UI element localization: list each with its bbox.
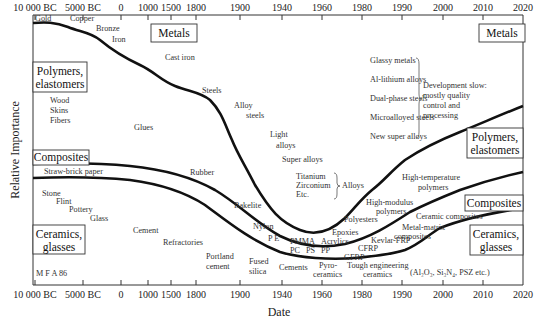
- svg-text:alloys: alloys: [276, 141, 296, 150]
- svg-text:1900: 1900: [230, 289, 250, 300]
- svg-text:Ceramics,: Ceramics,: [36, 228, 82, 241]
- svg-text:Metals: Metals: [486, 27, 518, 39]
- metals-polymers-boundary: [33, 22, 523, 232]
- svg-text:Bakelite: Bakelite: [234, 201, 262, 210]
- materials-evolution-chart: 10 000 BC 5000 BC 0 1000 1500 1800 1900 …: [0, 0, 539, 329]
- svg-text:Alloy: Alloy: [234, 101, 254, 110]
- svg-text:Glass: Glass: [90, 214, 108, 223]
- alloys-brace: [334, 173, 340, 199]
- svg-text:Titanium: Titanium: [296, 172, 326, 181]
- svg-text:1960: 1960: [312, 289, 332, 300]
- svg-text:Refractories: Refractories: [163, 238, 203, 247]
- svg-text:1990: 1990: [392, 2, 412, 13]
- svg-text:Polymers,: Polymers,: [472, 131, 518, 144]
- svg-text:10 000 BC: 10 000 BC: [13, 2, 57, 13]
- svg-text:Steels: Steels: [202, 86, 222, 95]
- svg-text:CFRP: CFRP: [358, 244, 378, 253]
- svg-text:Etc.: Etc.: [296, 190, 309, 199]
- svg-text:Composites: Composites: [467, 197, 522, 210]
- svg-text:1500: 1500: [161, 289, 181, 300]
- svg-text:Copper: Copper: [70, 14, 94, 23]
- box-composites-right: Composites: [465, 195, 523, 211]
- svg-text:mostly quality: mostly quality: [423, 91, 471, 100]
- svg-text:glasses: glasses: [43, 241, 76, 254]
- svg-text:10 000 BC: 10 000 BC: [13, 289, 57, 300]
- svg-text:5000 BC: 5000 BC: [65, 2, 101, 13]
- svg-text:PC: PC: [290, 246, 301, 255]
- svg-text:steels: steels: [246, 111, 264, 120]
- svg-text:PMMA: PMMA: [290, 237, 315, 246]
- svg-text:Fibers: Fibers: [50, 116, 70, 125]
- svg-text:Composites: Composites: [34, 151, 89, 164]
- svg-text:Polymers,: Polymers,: [37, 65, 83, 78]
- svg-text:PP: PP: [321, 246, 331, 255]
- svg-text:Gold: Gold: [35, 14, 51, 23]
- box-polymers-right: Polymers, elastomers: [467, 128, 523, 158]
- svg-text:control and: control and: [423, 101, 460, 110]
- svg-text:1960: 1960: [312, 2, 332, 13]
- svg-text:1980: 1980: [352, 2, 372, 13]
- svg-text:Fused: Fused: [249, 257, 269, 266]
- svg-text:2010: 2010: [473, 289, 493, 300]
- svg-text:1980: 1980: [352, 289, 372, 300]
- svg-text:Metal-matrix: Metal-matrix: [402, 223, 445, 232]
- svg-text:High-modulus: High-modulus: [366, 198, 413, 207]
- svg-text:Rubber: Rubber: [190, 168, 214, 177]
- svg-text:Portland: Portland: [206, 252, 234, 261]
- svg-text:Iron: Iron: [112, 35, 126, 44]
- svg-text:processing: processing: [423, 111, 458, 120]
- svg-text:1000: 1000: [138, 289, 158, 300]
- svg-text:Cement: Cement: [133, 226, 159, 235]
- top-tick-labels: 10 000 BC 5000 BC 0 1000 1500 1800 1900 …: [13, 2, 533, 13]
- svg-text:glasses: glasses: [480, 241, 513, 254]
- svg-text:Pottery: Pottery: [69, 205, 94, 214]
- bottom-tick-labels: 10 000 BC 5000 BC 0 1000 1500 1800 1900 …: [13, 289, 533, 300]
- svg-text:Tough engineering: Tough engineering: [347, 261, 409, 270]
- svg-text:Cast iron: Cast iron: [165, 53, 195, 62]
- svg-text:1900: 1900: [230, 2, 250, 13]
- svg-text:Nylon: Nylon: [253, 222, 273, 231]
- svg-text:elastomers: elastomers: [35, 78, 85, 90]
- svg-text:PS: PS: [306, 246, 316, 255]
- svg-text:High-temperature: High-temperature: [402, 173, 461, 182]
- svg-text:Polyesters: Polyesters: [344, 215, 378, 224]
- svg-text:Al-lithium alloys: Al-lithium alloys: [370, 75, 426, 84]
- svg-text:Glues: Glues: [134, 123, 153, 132]
- svg-text:1800: 1800: [186, 2, 206, 13]
- svg-text:1990: 1990: [392, 289, 412, 300]
- svg-text:Bronze: Bronze: [96, 24, 120, 33]
- svg-text:5000 BC: 5000 BC: [65, 289, 101, 300]
- svg-text:(Al₂O₃, Si₃N₄, PSZ etc.): (Al₂O₃, Si₃N₄, PSZ etc.): [410, 268, 490, 277]
- svg-text:ceramics: ceramics: [313, 270, 342, 279]
- svg-text:Wood: Wood: [50, 96, 69, 105]
- svg-text:silica: silica: [249, 267, 267, 276]
- svg-text:Glassy metals: Glassy metals: [370, 56, 416, 65]
- svg-text:2020: 2020: [513, 2, 533, 13]
- svg-text:Super alloys: Super alloys: [282, 155, 323, 164]
- svg-text:Light: Light: [270, 130, 288, 139]
- svg-text:2000: 2000: [433, 289, 453, 300]
- box-ceramics-right: Ceramics, glasses: [470, 225, 523, 255]
- svg-text:Epoxies: Epoxies: [332, 228, 358, 237]
- svg-text:Ceramics,: Ceramics,: [473, 228, 519, 241]
- svg-text:1940: 1940: [272, 289, 292, 300]
- svg-text:polymers: polymers: [418, 183, 448, 192]
- svg-text:Metals: Metals: [158, 27, 190, 39]
- box-metals-right: Metals: [479, 24, 525, 42]
- svg-text:Straw-brick paper: Straw-brick paper: [44, 167, 103, 176]
- x-axis-title: Date: [268, 305, 291, 319]
- svg-text:Skins: Skins: [50, 106, 68, 115]
- svg-text:0: 0: [119, 2, 124, 13]
- svg-text:Cements: Cements: [279, 263, 308, 272]
- svg-text:Acrylics: Acrylics: [321, 237, 349, 246]
- box-ceramics-left: Ceramics, glasses: [33, 225, 85, 254]
- svg-text:1800: 1800: [186, 289, 206, 300]
- svg-text:2000: 2000: [433, 2, 453, 13]
- svg-text:M F A 86: M F A 86: [36, 269, 67, 278]
- box-composites-left: Composites: [33, 150, 89, 165]
- svg-text:Ceramic composites: Ceramic composites: [416, 212, 483, 221]
- svg-text:2010: 2010: [473, 2, 493, 13]
- svg-text:composites: composites: [394, 232, 431, 241]
- svg-text:Alloys: Alloys: [342, 181, 364, 190]
- svg-text:P E: P E: [268, 234, 279, 243]
